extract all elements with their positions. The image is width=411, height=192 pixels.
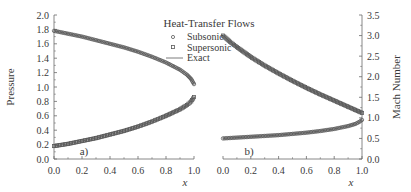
x-tick-label: 0.2 xyxy=(245,165,258,176)
series-supersonic xyxy=(52,95,195,147)
x-tick-label: 0.8 xyxy=(328,165,341,176)
y-tick-label: 0.8 xyxy=(37,96,50,107)
y-tick-label: 1.5 xyxy=(367,92,380,103)
x-tick-label: 0.6 xyxy=(132,165,145,176)
y-tick-label: 0.0 xyxy=(37,154,50,165)
y-tick-label: 2.5 xyxy=(367,51,380,62)
x-tick-label: 0.2 xyxy=(76,165,89,176)
legend-exact: Exact xyxy=(187,52,210,63)
y-tick-label: 0.2 xyxy=(37,139,50,150)
series-subsonic xyxy=(221,118,363,140)
y-tick-label: 3.5 xyxy=(367,10,380,21)
x-tick-label: 1.0 xyxy=(356,165,369,176)
y-tick-label: 1.4 xyxy=(37,53,50,64)
x-tick-label: 0.8 xyxy=(160,165,173,176)
y-tick-label: 0.0 xyxy=(367,154,380,165)
panel-label-a: a) xyxy=(80,145,89,158)
y-tick-label: 1.2 xyxy=(37,67,50,78)
y-tick-label: 3.0 xyxy=(367,30,380,41)
legend-subsonic: Subsonic xyxy=(187,31,224,42)
exact-line xyxy=(54,97,194,146)
x-tick-label: 1.0 xyxy=(188,165,201,176)
x-axis-title-b: x xyxy=(348,176,354,188)
pressure-panel: 0.00.20.40.60.81.00.00.20.40.60.81.01.21… xyxy=(37,10,201,177)
x-tick-label: 0.0 xyxy=(217,165,230,176)
mach-panel: 0.00.20.40.60.81.00.00.51.01.52.02.53.03… xyxy=(217,10,380,177)
supersonic-marker-icon xyxy=(171,45,174,48)
y-tick-label: 2.0 xyxy=(367,71,380,82)
legend-title: Heat-Transfer Flows xyxy=(164,17,255,29)
x-tick-label: 0.6 xyxy=(300,165,313,176)
subsonic-marker-icon xyxy=(171,35,174,38)
y-tick-label: 1.8 xyxy=(37,24,50,35)
x-tick-label: 0.4 xyxy=(104,165,117,176)
x-axis-title-a: x xyxy=(182,176,188,188)
y-tick-label: 0.4 xyxy=(37,125,50,136)
series-supersonic xyxy=(221,34,363,115)
mach-axis-title: Mach Number xyxy=(390,55,402,119)
heat-transfer-chart: 0.00.20.40.60.81.00.00.20.40.60.81.01.21… xyxy=(0,0,411,192)
legend: Heat-Transfer Flows Subsonic Supersonic … xyxy=(164,17,255,63)
y-tick-label: 1.6 xyxy=(37,38,50,49)
y-tick-label: 2.0 xyxy=(37,10,50,21)
pressure-axis-title: Pressure xyxy=(4,68,16,105)
y-tick-label: 0.5 xyxy=(367,133,380,144)
y-tick-label: 1.0 xyxy=(37,82,50,93)
y-tick-label: 1.0 xyxy=(367,112,380,123)
panel-label-b: b) xyxy=(244,145,254,158)
x-tick-label: 0.4 xyxy=(272,165,285,176)
y-tick-label: 0.6 xyxy=(37,110,50,121)
x-tick-label: 0.0 xyxy=(48,165,61,176)
